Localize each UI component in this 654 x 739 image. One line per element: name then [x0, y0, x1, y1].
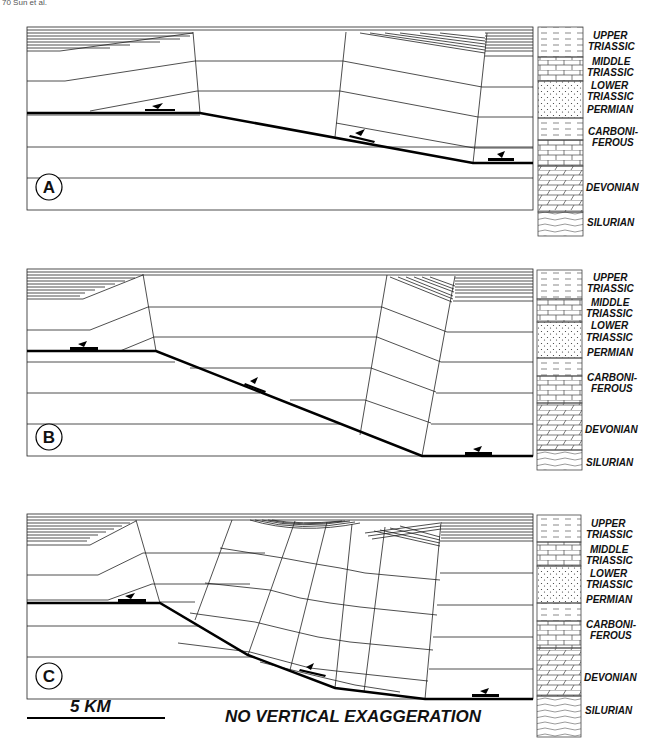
panel-b-shear-arrows: [70, 341, 492, 455]
panel-c-label: C: [43, 667, 55, 686]
svg-text:TRIASSIC: TRIASSIC: [586, 332, 633, 343]
panel-c: [27, 514, 533, 699]
panel-b-thin-beds-left: [27, 275, 143, 299]
svg-text:LOWER: LOWER: [591, 320, 629, 331]
svg-text:LOWER: LOWER: [590, 568, 628, 579]
scale-bar-label: 5 KM: [70, 697, 111, 716]
svg-text:MIDDLE: MIDDLE: [591, 297, 630, 308]
strat-labels-b: UPPER TRIASSIC MIDDLE TRIASSIC LOWER TRI…: [585, 272, 639, 468]
cross-section-figure: 70 Sun et al.: [0, 0, 654, 739]
svg-text:DEVONIAN: DEVONIAN: [584, 672, 638, 683]
svg-text:CARBONI-: CARBONI-: [587, 372, 638, 383]
panel-b: [27, 269, 533, 456]
strat-column-a: [538, 27, 583, 236]
svg-text:FEROUS: FEROUS: [590, 630, 632, 641]
panel-a-frame: [27, 27, 533, 210]
svg-text:TRIASSIC: TRIASSIC: [586, 555, 633, 566]
panel-a-thin-beds-right: [360, 33, 533, 56]
svg-text:MIDDLE: MIDDLE: [592, 56, 631, 67]
svg-text:CARBONI-: CARBONI-: [588, 126, 639, 137]
svg-text:SILURIAN: SILURIAN: [585, 705, 633, 716]
svg-text:MIDDLE: MIDDLE: [590, 544, 629, 555]
svg-text:TRIASSIC: TRIASSIC: [588, 41, 635, 52]
panel-c-layers: [178, 548, 440, 692]
svg-text:LOWER: LOWER: [591, 80, 629, 91]
panel-a-shear-arrows: [145, 103, 514, 161]
svg-text:FEROUS: FEROUS: [592, 137, 634, 148]
svg-text:CARBONI-: CARBONI-: [586, 619, 637, 630]
panel-b-thin-beds-right: [390, 277, 533, 302]
strat-labels-c: UPPER TRIASSIC MIDDLE TRIASSIC LOWER TRI…: [584, 518, 638, 716]
svg-text:UPPER: UPPER: [593, 30, 628, 41]
strat-labels-a: UPPER TRIASSIC MIDDLE TRIASSIC LOWER TRI…: [586, 30, 640, 228]
svg-text:DEVONIAN: DEVONIAN: [586, 182, 640, 193]
page-header-fragment: 70 Sun et al.: [2, 0, 47, 7]
panel-b-detachment-fault: [27, 351, 533, 456]
svg-text:TRIASSIC: TRIASSIC: [587, 67, 634, 78]
panel-c-growth-beds: [250, 520, 533, 546]
svg-text:TRIASSIC: TRIASSIC: [586, 308, 633, 319]
svg-text:PERMIAN: PERMIAN: [587, 347, 634, 358]
svg-text:UPPER: UPPER: [593, 272, 628, 283]
panel-c-shear-arrows: [118, 593, 499, 697]
svg-text:FEROUS: FEROUS: [591, 383, 633, 394]
svg-text:SILURIAN: SILURIAN: [587, 217, 635, 228]
panel-c-frame: [27, 514, 533, 699]
panel-b-label: B: [43, 428, 55, 447]
panel-c-thin-beds-left: [27, 521, 136, 545]
vertical-exaggeration-note: NO VERTICAL EXAGGERATION: [225, 707, 482, 726]
panel-c-detachment-fault: [27, 603, 533, 699]
strat-column-c: [537, 515, 581, 737]
svg-text:SILURIAN: SILURIAN: [586, 457, 634, 468]
panel-a: [27, 27, 533, 210]
panel-c-faults: [195, 520, 441, 699]
svg-text:TRIASSIC: TRIASSIC: [587, 91, 634, 102]
panel-a-detachment-fault: [27, 113, 533, 163]
svg-text:TRIASSIC: TRIASSIC: [586, 529, 633, 540]
svg-text:TRIASSIC: TRIASSIC: [587, 283, 634, 294]
strat-column-b: [537, 270, 582, 470]
svg-text:PERMIAN: PERMIAN: [586, 594, 633, 605]
svg-text:TRIASSIC: TRIASSIC: [586, 579, 633, 590]
svg-text:DEVONIAN: DEVONIAN: [585, 424, 639, 435]
svg-text:PERMIAN: PERMIAN: [587, 104, 634, 115]
panel-a-label: A: [43, 178, 55, 197]
svg-text:UPPER: UPPER: [591, 518, 626, 529]
